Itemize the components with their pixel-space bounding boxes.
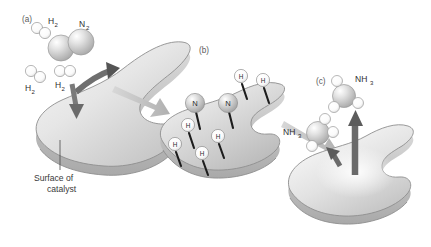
- atom-label-h-2: H: [261, 77, 266, 84]
- label-h2-left: H: [25, 83, 31, 93]
- atom-label-h-3: H: [186, 122, 191, 129]
- label-nh3-lower: NH: [283, 127, 295, 137]
- atom-label-h-5: H: [200, 150, 205, 157]
- atom-label-h-6: H: [216, 133, 221, 140]
- atom-label-h-1: H: [239, 73, 244, 80]
- catalysis-diagram: N 2 H 2 H 2 H 2: [0, 0, 431, 247]
- label-nh3-upper: NH: [355, 74, 367, 84]
- label-h2-top: H: [48, 16, 54, 26]
- atom-label-h-4: H: [173, 141, 178, 148]
- caption-surface-line2: catalyst: [47, 184, 77, 194]
- atom-label-n-1: N: [192, 99, 197, 108]
- figure-canvas: N 2 H 2 H 2 H 2: [0, 0, 431, 247]
- atom-label-n-2: N: [225, 99, 230, 108]
- panel-label-b: (b): [199, 46, 209, 55]
- label-h2-middle: H: [55, 80, 61, 90]
- panel-label-c: (c): [316, 77, 326, 86]
- label-n2: N: [79, 19, 85, 29]
- caption-surface-line1: Surface of: [34, 173, 74, 183]
- panel-label-a: (a): [22, 15, 32, 24]
